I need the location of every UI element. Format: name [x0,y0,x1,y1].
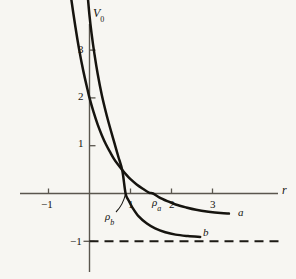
rho-b-subscript: b [110,218,114,227]
x-tick-label-2: 2 [169,199,175,210]
curve-a-label: a [238,207,244,218]
curve-b-path [85,0,200,237]
tick-marks-group [49,50,213,241]
x-tick-label-1: 1 [128,199,134,210]
figure-container: V0 r −1 1 2 3 1 2 3 −1 ρa ρb a b [0,0,296,279]
axes-group [20,24,278,272]
x-tick-label-neg1: −1 [41,199,53,210]
curve-b-label: b [203,227,209,238]
y-tick-label-neg1: −1 [70,236,82,247]
y-tick-label-3: 3 [78,44,84,55]
y-axis-label-subscript: 0 [100,15,104,24]
x-axis-label: r [282,184,287,196]
plot-canvas [0,0,296,279]
x-tick-label-3: 3 [210,199,216,210]
rho-a-label: ρa [152,197,161,211]
rho-b-label: ρb [105,211,114,225]
y-tick-label-2: 2 [78,91,84,102]
y-axis-label: V0 [93,7,104,22]
rho-a-subscript: a [157,204,161,213]
rho-b-leader-line [116,194,126,212]
y-tick-label-1: 1 [78,138,84,149]
